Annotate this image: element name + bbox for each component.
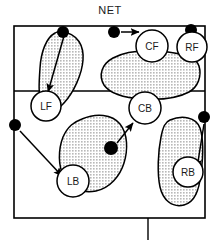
player-cf-label: CF [145,41,158,52]
player-cf[interactable]: CF [136,30,168,62]
player-rf-label: RF [185,42,198,53]
player-cb[interactable]: CB [129,92,161,124]
player-rb[interactable]: RB [173,157,203,187]
player-rb-label: RB [181,167,195,178]
player-lb-label: LB [67,176,80,187]
volleyball-court-diagram: NET [0,0,220,245]
player-lf-label: LF [40,101,52,112]
player-rf[interactable]: RF [177,32,207,62]
ball-marker-right-side [198,111,210,123]
ball-marker-left-net [57,26,69,38]
court-svg: LF CF RF CB LB RB [0,0,220,245]
player-lb[interactable]: LB [57,165,89,197]
player-cb-label: CB [138,103,152,114]
ball-marker-center-net [108,26,120,38]
player-lf[interactable]: LF [31,91,61,121]
ball-marker-mid-court [104,141,118,155]
ball-marker-left-side [9,119,21,131]
